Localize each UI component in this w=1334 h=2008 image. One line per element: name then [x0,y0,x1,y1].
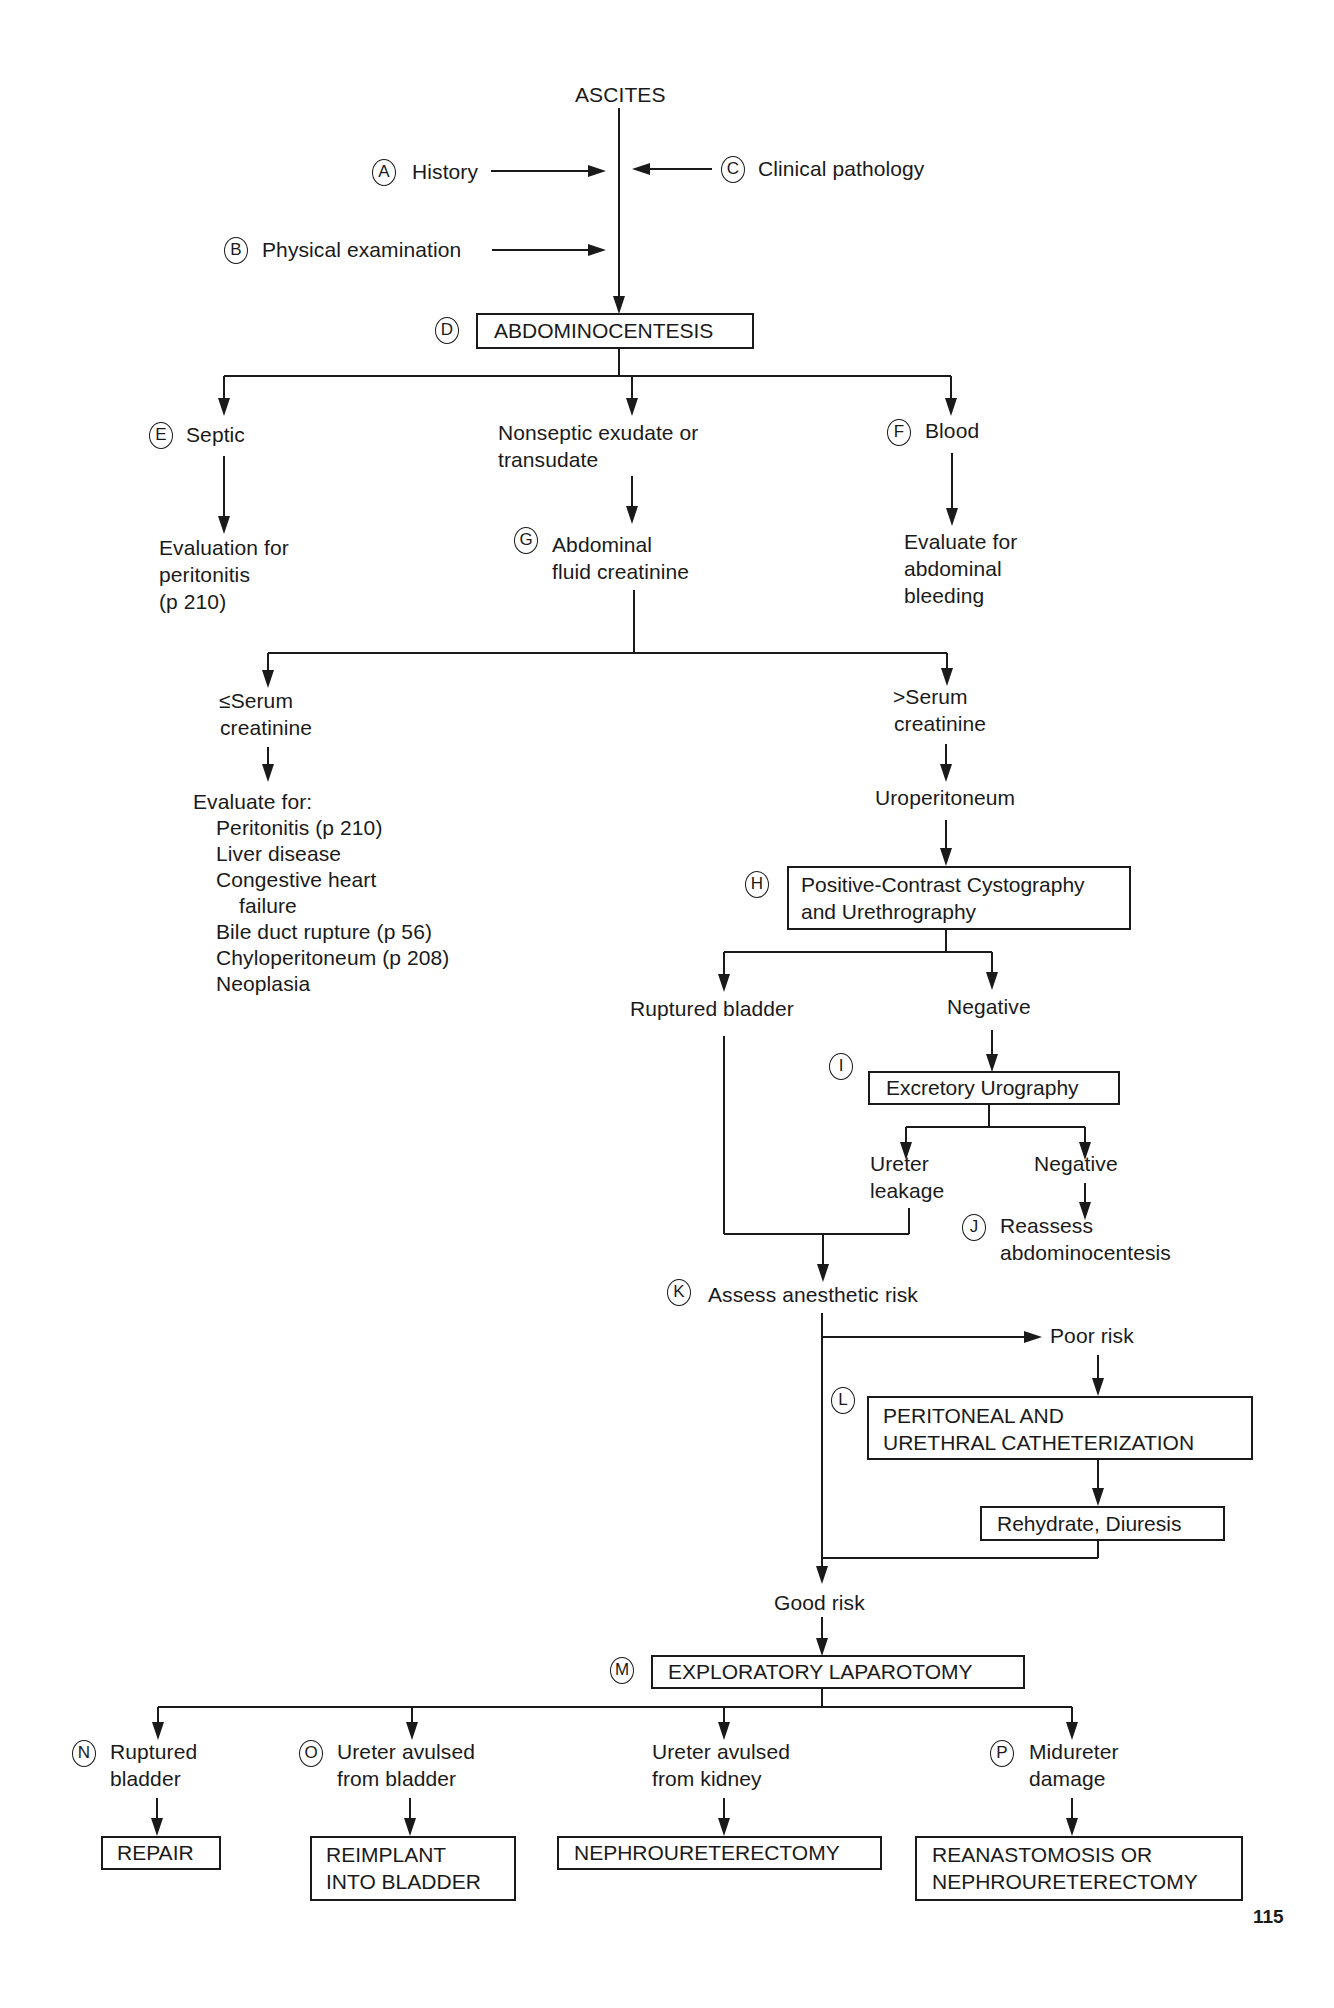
urography-label: Excretory Urography [886,1075,1079,1101]
blood-result-line-3: bleeding [904,583,984,609]
septic-result-line-1: Evaluation for [159,535,289,561]
gt-serum-label-line-1: >Serum [893,684,968,710]
step-marker-i: I [829,1053,853,1080]
step-marker-h: H [745,871,769,898]
step-marker-c: C [721,156,745,183]
outcome-o-line-2: from bladder [337,1766,456,1792]
negative-label-2: Negative [1034,1151,1118,1177]
step-marker-p: P [990,1740,1014,1767]
repair-box: REPAIR [101,1836,221,1870]
laparotomy-box: EXPLORATORY LAPAROTOMY [651,1655,1025,1689]
good-risk-label: Good risk [774,1590,865,1616]
rehydrate-box: Rehydrate, Diuresis [980,1506,1225,1541]
urography-box: Excretory Urography [868,1071,1120,1105]
step-marker-m: M [610,1657,634,1684]
evaluate-for-title: Evaluate for: [193,789,312,815]
catheterization-label-line-2: URETHRAL CATHETERIZATION [883,1430,1194,1456]
ascites-title: ASCITES [575,82,666,108]
septic-result-line-2: peritonitis [159,562,250,588]
nonseptic-label-line-2: transudate [498,447,598,473]
ureter-leakage-line-2: leakage [870,1178,944,1204]
blood-result-line-1: Evaluate for [904,529,1017,555]
reassess-label-line-2: abdominocentesis [1000,1240,1171,1266]
cystography-box: Positive-Contrast Cystography and Urethr… [787,866,1131,930]
step-marker-k: K [667,1279,691,1306]
history-label: History [412,159,478,185]
blood-result-line-2: abdominal [904,556,1002,582]
evaluate-item: Congestive heart [216,867,376,893]
nephroureterectomy-label: NEPHROURETERECTOMY [574,1840,840,1866]
step-marker-a: A [372,159,396,186]
outcome-n-line-2: bladder [110,1766,181,1792]
evaluate-item: Peritonitis (p 210) [216,815,382,841]
nonseptic-label-line-1: Nonseptic exudate or [498,420,698,446]
uroperitoneum-label: Uroperitoneum [875,785,1015,811]
cystography-label-line-2: and Urethrography [801,899,976,925]
reanastomosis-box: REANASTOMOSIS OR NEPHROURETERECTOMY [915,1836,1243,1901]
nephroureterectomy-box: NEPHROURETERECTOMY [557,1836,882,1870]
clinical-pathology-label: Clinical pathology [758,156,924,182]
page-number: 115 [1253,1906,1284,1928]
reassess-label-line-1: Reassess [1000,1213,1093,1239]
step-marker-g: G [514,527,538,554]
outcome-o-line-1: Ureter avulsed [337,1739,475,1765]
evaluate-item: Neoplasia [216,971,310,997]
le-serum-label-line-1: ≤Serum [219,688,293,714]
anesthetic-risk-label: Assess anesthetic risk [708,1282,918,1308]
negative-label: Negative [947,994,1031,1020]
abdominocentesis-label: ABDOMINOCENTESIS [494,318,713,344]
physical-examination-label: Physical examination [262,237,461,263]
evaluate-item: Chyloperitoneum (p 208) [216,945,449,971]
catheterization-label-line-1: PERITONEAL AND [883,1403,1064,1429]
step-marker-n: N [72,1740,96,1767]
outcome-kidney-line-1: Ureter avulsed [652,1739,790,1765]
creatinine-label-line-1: Abdominal [552,532,652,558]
step-marker-d: D [435,317,459,344]
outcome-kidney-line-2: from kidney [652,1766,762,1792]
creatinine-label-line-2: fluid creatinine [552,559,689,585]
abdominocentesis-box: ABDOMINOCENTESIS [476,313,754,349]
gt-serum-label-line-2: creatinine [894,711,986,737]
step-marker-b: B [224,237,248,264]
reimplant-label-line-2: INTO BLADDER [326,1869,481,1895]
catheterization-box: PERITONEAL AND URETHRAL CATHETERIZATION [867,1396,1253,1460]
step-marker-f: F [887,419,911,446]
septic-label: Septic [186,422,245,448]
step-marker-o: O [299,1740,323,1767]
outcome-n-line-1: Ruptured [110,1739,197,1765]
step-marker-e: E [149,422,173,449]
reanastomosis-label-line-2: NEPHROURETERECTOMY [932,1869,1198,1895]
ruptured-bladder-label: Ruptured bladder [630,996,794,1022]
flowchart-canvas: ASCITES A History C Clinical pathology B… [0,0,1334,2008]
outcome-p-line-1: Midureter [1029,1739,1119,1765]
blood-label: Blood [925,418,979,444]
poor-risk-label: Poor risk [1050,1323,1134,1349]
step-marker-l: L [831,1387,855,1414]
reimplant-label-line-1: REIMPLANT [326,1842,446,1868]
ureter-leakage-line-1: Ureter [870,1151,929,1177]
evaluate-item: Bile duct rupture (p 56) [216,919,432,945]
laparotomy-label: EXPLORATORY LAPAROTOMY [668,1659,973,1685]
step-marker-j: J [962,1214,986,1241]
repair-label: REPAIR [117,1840,194,1866]
evaluate-item: failure [239,893,297,919]
cystography-label-line-1: Positive-Contrast Cystography [801,872,1085,898]
septic-result-line-3: (p 210) [159,589,226,615]
evaluate-item: Liver disease [216,841,341,867]
le-serum-label-line-2: creatinine [220,715,312,741]
reanastomosis-label-line-1: REANASTOMOSIS OR [932,1842,1152,1868]
rehydrate-label: Rehydrate, Diuresis [997,1511,1181,1537]
reimplant-box: REIMPLANT INTO BLADDER [310,1836,516,1901]
outcome-p-line-2: damage [1029,1766,1106,1792]
